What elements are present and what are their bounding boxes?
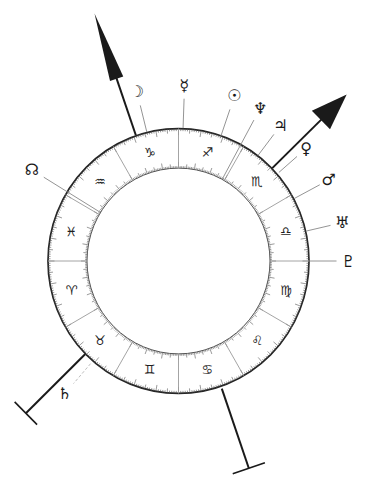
sign-leo-icon: ♌ xyxy=(251,333,263,348)
venus-icon: ♀ xyxy=(300,139,312,158)
sign-sagittarius-icon: ♐ xyxy=(201,145,213,160)
jupiter-icon: ♃ xyxy=(273,116,287,135)
sign-aries-icon: ♈ xyxy=(65,283,77,298)
sign-libra-icon: ♎ xyxy=(280,224,292,239)
sign-cancer-icon: ♋ xyxy=(201,362,213,377)
sign-scorpio-icon: ♏ xyxy=(251,174,263,189)
sign-virgo-icon: ♍ xyxy=(280,283,292,298)
moon-icon: ☽ xyxy=(130,82,144,101)
sign-gemini-icon: ♊ xyxy=(144,362,156,377)
mercury-icon: ☿ xyxy=(180,76,190,95)
saturn-icon: ♄ xyxy=(58,384,72,403)
sun-icon: ☉ xyxy=(227,86,241,105)
neptune-icon: ♆ xyxy=(253,99,267,118)
north-node-icon: ☊ xyxy=(25,160,39,179)
pluto-icon: ♇ xyxy=(341,252,355,271)
sign-taurus-icon: ♉ xyxy=(94,333,106,348)
mars-icon: ♂ xyxy=(321,170,335,189)
sign-aquarius-icon: ♒ xyxy=(94,174,106,189)
ring-inner-edge xyxy=(87,168,270,354)
sign-pisces-icon: ♓ xyxy=(65,224,77,239)
sign-capricorn-icon: ♑ xyxy=(144,145,156,160)
astrology-chart-wheel: ♎♏♐♑♒♓♈♉♊♋♌♍ ☽☿☉♆♃♀♂♅♇☊♄ xyxy=(0,0,369,487)
uranus-icon: ♅ xyxy=(335,213,349,232)
